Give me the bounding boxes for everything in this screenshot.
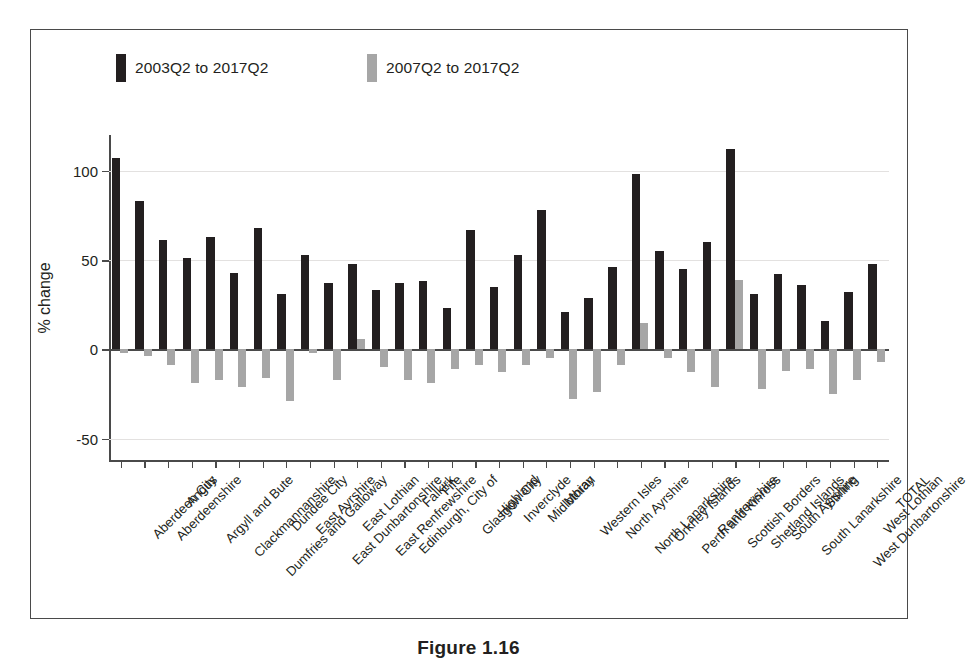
bar-series2 [120, 349, 128, 353]
bar-group [865, 135, 889, 460]
bar-group [180, 135, 204, 460]
bar-series1 [112, 158, 121, 349]
x-axis-tick [121, 460, 122, 468]
x-axis-tick [617, 460, 618, 468]
bar-series2 [617, 349, 625, 365]
bar-series1 [419, 281, 428, 349]
y-axis-tick-label: 100 [73, 162, 98, 179]
bar-series2 [404, 349, 412, 379]
bar-series2 [711, 349, 719, 387]
bar-group [724, 135, 748, 460]
bar-series2 [687, 349, 695, 372]
bar-series2 [451, 349, 459, 369]
bar-series2 [380, 349, 388, 367]
bar-series2 [144, 349, 152, 356]
bar-group [487, 135, 511, 460]
bar-series1 [537, 210, 546, 349]
bar-series2 [522, 349, 530, 365]
bar-group [842, 135, 866, 460]
bar-group [794, 135, 818, 460]
figure-frame: 2003Q2 to 2017Q2 2007Q2 to 2017Q2 % chan… [30, 29, 908, 619]
bar-series1 [230, 273, 239, 350]
bar-group [369, 135, 393, 460]
x-axis-tick [688, 460, 689, 468]
x-axis-tick [594, 460, 595, 468]
bar-group [700, 135, 724, 460]
bar-series1 [844, 292, 853, 349]
plot-area: % change -50050100 Aberdeen CityAberdeen… [109, 135, 889, 460]
x-axis-tick [735, 460, 736, 468]
bar-series2 [262, 349, 270, 378]
y-axis-tick [102, 439, 109, 441]
legend-item-series1: 2003Q2 to 2017Q2 [116, 54, 268, 82]
bar-group [251, 135, 275, 460]
bar-group [204, 135, 228, 460]
bar-series1 [750, 294, 759, 349]
x-axis-tick [523, 460, 524, 468]
bar-group [676, 135, 700, 460]
bar-series2 [333, 349, 341, 379]
x-axis-tick [168, 460, 169, 468]
bar-series1 [443, 308, 452, 349]
bar-series2 [569, 349, 577, 399]
bar-series1 [348, 264, 357, 350]
chart-legend: 2003Q2 to 2017Q2 2007Q2 to 2017Q2 [31, 54, 907, 84]
bar-series2 [427, 349, 435, 383]
bar-series1 [655, 251, 664, 349]
x-axis-tick [806, 460, 807, 468]
bar-series2 [735, 280, 743, 350]
x-axis-tick [664, 460, 665, 468]
bar-series1 [159, 240, 168, 349]
bar-group [464, 135, 488, 460]
bar-series2 [782, 349, 790, 370]
bar-series1 [254, 228, 263, 349]
x-axis-tick [854, 460, 855, 468]
x-axis-tick [192, 460, 193, 468]
x-axis-tick [239, 460, 240, 468]
bar-series2 [167, 349, 175, 365]
bar-group [227, 135, 251, 460]
x-axis-tick [286, 460, 287, 468]
bar-series2 [806, 349, 814, 369]
bar-series1 [135, 201, 144, 349]
x-axis-tick [570, 460, 571, 468]
x-axis-tick [357, 460, 358, 468]
bar-group [818, 135, 842, 460]
x-axis-tick [334, 460, 335, 468]
bar-group [416, 135, 440, 460]
bar-series2 [357, 339, 365, 350]
x-axis-tick [144, 460, 145, 468]
x-axis-tick [759, 460, 760, 468]
bar-group [582, 135, 606, 460]
bar-series2 [498, 349, 506, 372]
legend-label-series1: 2003Q2 to 2017Q2 [135, 59, 268, 77]
bar-series1 [774, 274, 783, 349]
bar-series2 [309, 349, 317, 353]
bar-series1 [514, 255, 523, 350]
legend-label-series2: 2007Q2 to 2017Q2 [386, 59, 519, 77]
bar-series2 [877, 349, 885, 362]
bar-series1 [561, 312, 570, 350]
x-axis-tick [475, 460, 476, 468]
bar-series1 [703, 242, 712, 349]
bar-group [511, 135, 535, 460]
legend-swatch-series2 [367, 54, 377, 82]
bar-group [440, 135, 464, 460]
bar-series2 [640, 323, 648, 350]
bar-series2 [829, 349, 837, 394]
bar-series1 [821, 321, 830, 350]
bar-series2 [593, 349, 601, 392]
bar-group [156, 135, 180, 460]
bar-series-container [109, 135, 889, 460]
x-axis-tick [546, 460, 547, 468]
legend-item-series2: 2007Q2 to 2017Q2 [367, 54, 519, 82]
x-axis-tick [404, 460, 405, 468]
bar-group [534, 135, 558, 460]
bar-series1 [679, 269, 688, 349]
bar-series2 [215, 349, 223, 379]
x-axis-tick [215, 460, 216, 468]
x-axis-tick [830, 460, 831, 468]
y-axis-tick-label: -50 [76, 430, 98, 447]
bar-series1 [277, 294, 286, 349]
bar-series1 [395, 283, 404, 349]
